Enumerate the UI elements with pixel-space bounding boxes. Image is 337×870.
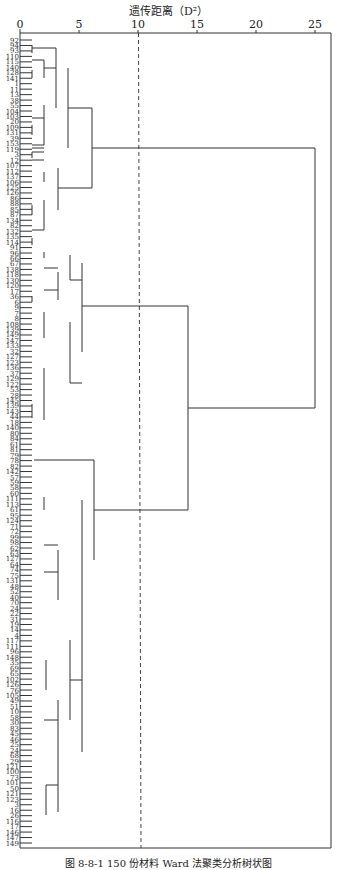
tick-label: 20 — [249, 18, 263, 31]
leaf-lines — [20, 40, 32, 843]
leaf-labels: 9294931101151401281411111338551041032010… — [6, 37, 20, 848]
x-tick-labels: 0 5 10 15 20 25 — [17, 18, 323, 31]
plot-frame — [20, 29, 331, 848]
dendrogram-branches — [32, 45, 315, 815]
tick-label: 5 — [76, 18, 83, 31]
leaf-label: 149 — [6, 840, 19, 848]
tick-label: 15 — [190, 18, 204, 31]
tick-label: 10 — [131, 18, 145, 31]
figure-caption: 图 8-8-1 150 份材料 Ward 法聚类分析树状图 — [0, 855, 337, 870]
tick-label: 25 — [308, 18, 322, 31]
threshold-line — [139, 33, 142, 848]
